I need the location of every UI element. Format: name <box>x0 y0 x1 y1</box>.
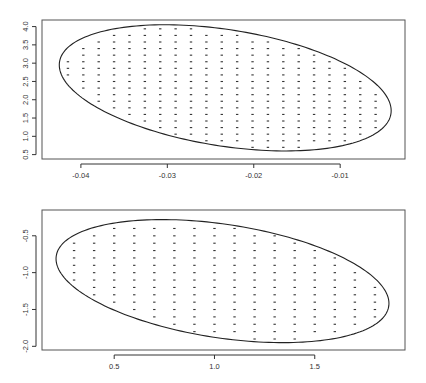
grid-point <box>205 101 207 102</box>
grid-point <box>344 81 346 82</box>
grid-point <box>233 228 235 229</box>
grid-point <box>354 309 356 310</box>
grid-point <box>159 55 161 56</box>
grid-point <box>73 280 75 281</box>
grid-point <box>97 48 99 49</box>
grid-point <box>174 101 176 102</box>
y-tick-label: 0.5 <box>21 149 30 159</box>
grid-point <box>282 147 284 148</box>
y-tick-label: 4.0 <box>21 21 30 31</box>
grid-point <box>144 81 146 82</box>
grid-point <box>297 81 299 82</box>
grid-point <box>113 294 115 295</box>
grid-point <box>236 35 238 36</box>
grid-point <box>93 257 95 258</box>
y-tick-label: 3.5 <box>21 40 30 50</box>
grid-point <box>267 134 269 135</box>
grid-point <box>251 68 253 69</box>
grid-point <box>193 228 195 229</box>
grid-point <box>297 134 299 135</box>
grid-point <box>313 88 315 89</box>
grid-point <box>174 114 176 115</box>
grid-point <box>159 61 161 62</box>
grid-point <box>73 265 75 266</box>
grid-point <box>221 107 223 108</box>
grid-point <box>93 250 95 251</box>
grid-point <box>193 272 195 273</box>
grid-point <box>236 81 238 82</box>
grid-point <box>297 127 299 128</box>
grid-point <box>313 55 315 56</box>
grid-point <box>221 74 223 75</box>
grid-point <box>190 134 192 135</box>
grid-point <box>190 88 192 89</box>
grid-point <box>334 272 336 273</box>
grid-point <box>159 35 161 36</box>
grid-point <box>144 35 146 36</box>
grid-point <box>133 250 135 251</box>
grid-point <box>113 235 115 236</box>
grid-point <box>159 68 161 69</box>
grid-point <box>205 55 207 56</box>
grid-point <box>267 94 269 95</box>
grid-point <box>97 41 99 42</box>
grid-point <box>334 294 336 295</box>
grid-point <box>82 48 84 49</box>
grid-point <box>174 107 176 108</box>
grid-point <box>253 302 255 303</box>
grid-point <box>253 294 255 295</box>
grid-point <box>113 107 115 108</box>
grid-point <box>82 68 84 69</box>
grid-point <box>193 235 195 236</box>
grid-point <box>359 88 361 89</box>
grid-point <box>128 61 130 62</box>
grid-point <box>190 68 192 69</box>
grid-point <box>233 324 235 325</box>
grid-point <box>113 272 115 273</box>
grid-point <box>253 250 255 251</box>
grid-point <box>82 88 84 89</box>
x-tick-label: -0.01 <box>332 171 349 180</box>
grid-point <box>159 114 161 115</box>
grid-point <box>282 48 284 49</box>
grid-point <box>174 74 176 75</box>
grid-point <box>374 302 376 303</box>
grid-point <box>113 265 115 266</box>
grid-point <box>153 272 155 273</box>
grid-point <box>113 81 115 82</box>
grid-point <box>236 74 238 75</box>
grid-point <box>313 101 315 102</box>
grid-point <box>267 74 269 75</box>
grid-point <box>93 235 95 236</box>
grid-point <box>328 74 330 75</box>
grid-point <box>282 94 284 95</box>
grid-point <box>213 272 215 273</box>
grid-point <box>190 94 192 95</box>
grid-point <box>334 257 336 258</box>
grid-point <box>113 101 115 102</box>
grid-point <box>282 81 284 82</box>
grid-point <box>144 94 146 95</box>
grid-point <box>159 74 161 75</box>
grid-point <box>190 120 192 121</box>
grid-point <box>253 309 255 310</box>
grid-point <box>293 331 295 332</box>
grid-point <box>193 265 195 266</box>
grid-point <box>314 287 316 288</box>
grid-point <box>133 235 135 236</box>
grid-point <box>314 265 316 266</box>
grid-point <box>282 114 284 115</box>
y-tick-label: -0.5 <box>21 229 30 242</box>
grid-point <box>267 81 269 82</box>
x-tick-label: -0.02 <box>245 171 262 180</box>
grid-point <box>213 250 215 251</box>
grid-point <box>93 287 95 288</box>
grid-point <box>159 41 161 42</box>
grid-point <box>233 272 235 273</box>
grid-point <box>213 257 215 258</box>
grid-point <box>344 114 346 115</box>
grid-point <box>190 55 192 56</box>
grid-point <box>251 48 253 49</box>
grid-point <box>97 55 99 56</box>
grid-point <box>205 134 207 135</box>
